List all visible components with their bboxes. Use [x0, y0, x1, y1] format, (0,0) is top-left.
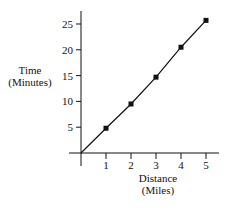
data-point-marker	[129, 101, 134, 106]
y-tick-label: 15	[62, 70, 74, 82]
x-axis-label: Distance (Miles)	[128, 172, 188, 196]
y-tick-label: 20	[62, 44, 74, 56]
y-tick-label: 5	[68, 121, 74, 133]
y-axis-label: Time (Minutes)	[2, 64, 58, 88]
x-axis-label-line1: Distance	[128, 172, 188, 184]
x-tick-label: 5	[203, 159, 209, 171]
data-line	[81, 20, 206, 153]
y-axis-label-line1: Time	[2, 64, 58, 76]
x-axis-label-line2: (Miles)	[128, 184, 188, 196]
data-point-marker	[179, 45, 184, 50]
data-point-marker	[104, 126, 109, 131]
x-tick-label: 4	[178, 159, 184, 171]
y-tick-label: 25	[62, 18, 74, 30]
chart-plot: 12345510152025	[0, 0, 231, 210]
x-tick-label: 2	[128, 159, 134, 171]
data-point-marker	[204, 18, 209, 23]
data-point-marker	[154, 75, 159, 80]
x-tick-label: 1	[103, 159, 109, 171]
x-tick-label: 3	[153, 159, 159, 171]
y-axis-label-line2: (Minutes)	[2, 76, 58, 88]
y-tick-label: 10	[62, 95, 74, 107]
